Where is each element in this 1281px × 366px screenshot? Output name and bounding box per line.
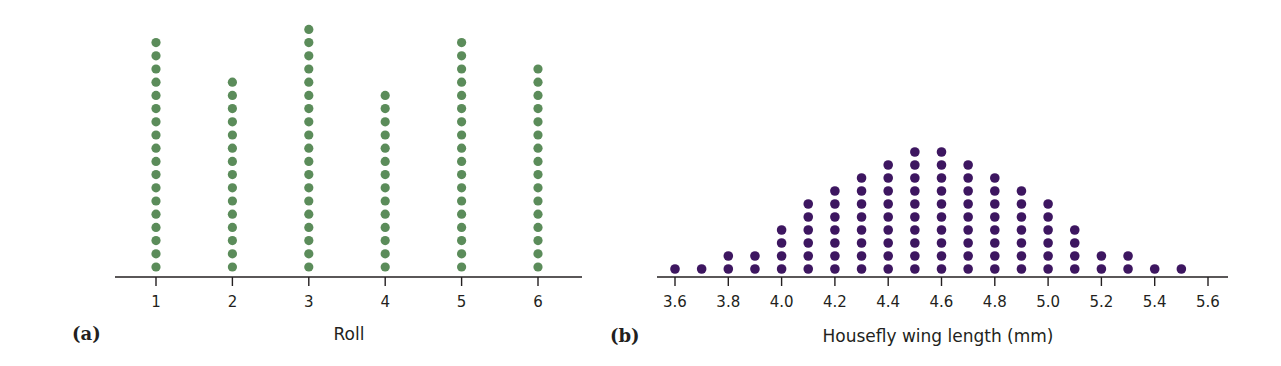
dot [1043,225,1053,235]
dot [228,236,237,245]
dot [228,223,237,232]
dot [533,104,542,113]
dot [304,51,313,60]
dot [151,104,160,113]
dot [990,238,1000,248]
dot [304,64,313,73]
x-axis-title: Roll [334,324,365,344]
dot-plot-housefly-wing: 3.63.84.04.24.44.64.85.05.25.45.6 Housef… [610,147,1228,346]
roll-dots [151,25,542,272]
dot [910,238,920,248]
tick-label: 4.2 [823,293,847,311]
dot [228,104,237,113]
dot [228,196,237,205]
dot [228,183,237,192]
dot [883,212,893,222]
dot [304,25,313,34]
dot [990,173,1000,183]
tick-label: 5.6 [1196,293,1220,311]
tick-label: 5.0 [1036,293,1060,311]
dot [963,238,973,248]
dot [228,262,237,271]
dot [910,173,920,183]
dot [381,196,390,205]
dot [381,249,390,258]
dot [228,91,237,100]
dot [724,251,734,261]
dot [151,64,160,73]
dot [937,225,947,235]
dot [857,212,867,222]
x-axis-title: Housefly wing length (mm) [822,326,1053,346]
tick-label: 4 [380,293,390,311]
dot [151,196,160,205]
dot [457,249,466,258]
dot [533,262,542,271]
dot [990,199,1000,209]
dot [857,264,867,274]
dot [830,225,840,235]
dot [151,130,160,139]
dot [151,91,160,100]
dot [457,210,466,219]
dot [937,186,947,196]
dot [381,223,390,232]
dot [910,186,920,196]
dot [830,212,840,222]
dot [533,249,542,258]
dot [533,196,542,205]
dot [910,199,920,209]
dot [151,236,160,245]
dot [533,183,542,192]
dot [1043,251,1053,261]
dot [533,130,542,139]
dot [457,262,466,271]
dot [533,210,542,219]
dot [381,210,390,219]
dot [151,117,160,126]
dot [304,170,313,179]
dot [533,91,542,100]
tick-label: 4.0 [770,293,794,311]
dot [381,91,390,100]
dot [381,170,390,179]
dot [857,251,867,261]
dot [1043,238,1053,248]
tick-label: 3.8 [716,293,740,311]
dot [883,225,893,235]
dot [1123,264,1133,274]
panel-label-b: (b) [610,325,640,346]
dot [963,199,973,209]
dot [1017,264,1027,274]
dot [228,157,237,166]
dot [1097,251,1107,261]
dot [304,196,313,205]
dot [777,251,787,261]
dot [803,238,813,248]
tick-label: 4.8 [983,293,1007,311]
tick-label: 3 [304,293,314,311]
dot [830,199,840,209]
dot [910,212,920,222]
tick-label: 6 [533,293,543,311]
dot [750,251,760,261]
dot [381,130,390,139]
dot [457,236,466,245]
dot [151,249,160,258]
tick-label: 5.4 [1143,293,1167,311]
dot [963,186,973,196]
dot [937,199,947,209]
dot [830,251,840,261]
dot [533,223,542,232]
dot [304,130,313,139]
dot [228,130,237,139]
dot [830,186,840,196]
dot [304,91,313,100]
dot [457,104,466,113]
dot [990,225,1000,235]
dot [910,251,920,261]
tick-label: 2 [228,293,238,311]
dot [963,251,973,261]
dot [803,264,813,274]
dot [777,238,787,248]
